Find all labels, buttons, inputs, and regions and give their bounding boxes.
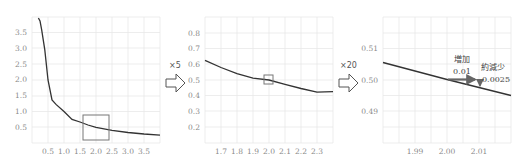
- svg-text:1.5: 1.5: [15, 91, 27, 100]
- svg-text:0.5: 0.5: [15, 123, 27, 132]
- svg-text:2.5: 2.5: [15, 60, 27, 69]
- plot-2-y-ticks: 0.8 0.7 0.6 0.5 0.4 0.3 0.2: [188, 29, 200, 132]
- zoom-label-x20: ×20: [340, 61, 357, 70]
- zoom-label-x5: ×5: [169, 61, 181, 70]
- svg-text:0.51: 0.51: [361, 44, 378, 53]
- svg-text:2.0: 2.0: [90, 147, 102, 156]
- svg-text:0.5: 0.5: [188, 76, 200, 85]
- plot-3-x-ticks: 1.99 2.00 2.01: [407, 147, 488, 156]
- svg-text:1.5: 1.5: [74, 147, 86, 156]
- svg-text:2.1: 2.1: [279, 147, 291, 156]
- svg-text:1.8: 1.8: [231, 147, 243, 156]
- decrease-value: 0.0025: [482, 75, 510, 84]
- plot-1-y-ticks: 3.5 3.0 2.5 2.0 1.5 1.0 0.5: [15, 28, 27, 132]
- zoom-sequence-figure: 3.5 3.0 2.5 2.0 1.5 1.0 0.5 0.5 1.0 1.5 …: [0, 0, 527, 168]
- plot-1-grid: [32, 17, 160, 143]
- svg-text:0.49: 0.49: [361, 107, 378, 116]
- svg-text:0.2: 0.2: [188, 123, 200, 132]
- svg-text:2.2: 2.2: [295, 147, 307, 156]
- svg-text:0.8: 0.8: [188, 29, 200, 38]
- svg-text:1.0: 1.0: [58, 147, 70, 156]
- svg-text:3.0: 3.0: [122, 147, 134, 156]
- svg-text:1.99: 1.99: [407, 147, 424, 156]
- plot-3-zoom-x20: 0.51 0.50 0.49 1.99 2.00 2.01 増加 0.01 約減…: [361, 17, 511, 156]
- plot-3-y-ticks: 0.51 0.50 0.49: [361, 44, 378, 116]
- plot-1-curve: [38, 18, 160, 135]
- svg-text:0.6: 0.6: [188, 60, 200, 69]
- svg-text:2.0: 2.0: [15, 75, 27, 84]
- hollow-arrow-icon: [339, 74, 358, 92]
- svg-text:0.4: 0.4: [188, 91, 200, 100]
- plot-1-x-ticks: 0.5 1.0 1.5 2.0 2.5 3.0 3.5: [42, 147, 150, 156]
- decrease-label: 約減少: [481, 62, 505, 72]
- plot-2-x-ticks: 1.7 1.8 1.9 2.0 2.1 2.2 2.3: [215, 147, 323, 156]
- svg-text:2.0: 2.0: [263, 147, 275, 156]
- zoom-arrow-2: ×20: [339, 61, 358, 92]
- svg-text:1.9: 1.9: [247, 147, 259, 156]
- svg-text:3.5: 3.5: [15, 28, 27, 37]
- plot-1-overview: 3.5 3.0 2.5 2.0 1.5 1.0 0.5 0.5 1.0 1.5 …: [15, 17, 160, 156]
- svg-text:3.0: 3.0: [15, 44, 27, 53]
- svg-text:2.5: 2.5: [106, 147, 118, 156]
- svg-text:3.5: 3.5: [138, 147, 150, 156]
- increase-value: 0.01: [453, 67, 471, 76]
- zoom-arrow-1: ×5: [166, 61, 185, 92]
- svg-text:1.0: 1.0: [15, 107, 27, 116]
- hollow-arrow-icon: [166, 74, 185, 92]
- increase-label: 増加: [454, 54, 470, 64]
- svg-text:2.3: 2.3: [311, 147, 323, 156]
- svg-text:0.3: 0.3: [188, 107, 200, 116]
- svg-text:0.5: 0.5: [42, 147, 54, 156]
- svg-text:0.50: 0.50: [361, 76, 378, 85]
- svg-text:0.7: 0.7: [188, 44, 200, 53]
- svg-text:1.7: 1.7: [215, 147, 227, 156]
- svg-text:2.01: 2.01: [471, 147, 488, 156]
- plot-2-zoom-x5: 0.8 0.7 0.6 0.5 0.4 0.3 0.2 1.7 1.8 1.9 …: [188, 17, 333, 156]
- svg-text:2.00: 2.00: [439, 147, 456, 156]
